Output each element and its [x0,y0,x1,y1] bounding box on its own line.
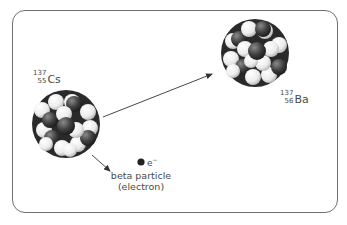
ba-symbol: Ba [294,94,308,105]
caption-line-1: beta particle [96,170,186,181]
electron-charge: − [153,156,158,163]
ba137-label: 137 56 Ba [280,90,309,105]
electron-dot [137,158,144,165]
ba137-nucleus [221,19,289,87]
beta-particle-caption: beta particle (electron) [96,170,186,192]
cs-atomic-number: 55 [37,78,46,86]
caption-line-2: (electron) [96,181,186,192]
emission-arrow [92,155,110,171]
decay-arrow [103,74,212,117]
cs137-label: 137 55 Cs [33,70,61,85]
electron-label: e− [147,156,158,168]
ba-atomic-number: 56 [284,98,293,106]
ba137-numbers: 137 56 [280,90,293,105]
cs-symbol: Cs [47,74,60,85]
cs137-numbers: 137 55 [33,70,46,85]
cs137-nucleus [32,90,100,158]
